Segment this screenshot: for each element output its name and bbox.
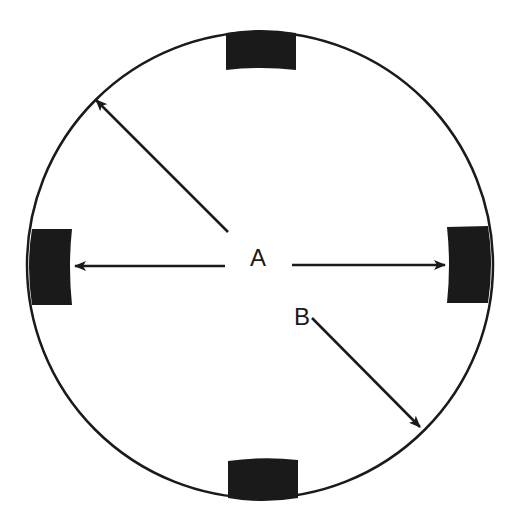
bottom-block bbox=[228, 458, 298, 501]
right-block bbox=[447, 226, 491, 303]
label-a: A bbox=[250, 244, 266, 271]
label-b: B bbox=[294, 303, 310, 330]
left-block bbox=[29, 229, 72, 305]
top-block bbox=[226, 30, 296, 70]
circle-diagram: A B bbox=[0, 0, 508, 522]
arrow-b-lower-right bbox=[312, 318, 420, 427]
arrow-a-upper-left bbox=[96, 100, 228, 232]
